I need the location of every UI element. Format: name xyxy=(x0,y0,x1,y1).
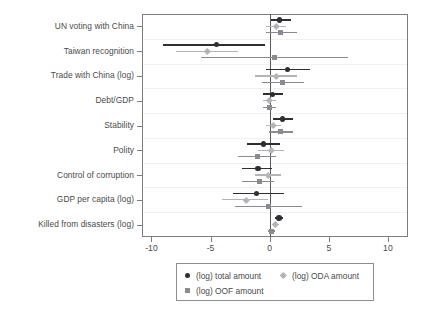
y-axis-tick xyxy=(137,126,142,127)
point-marker-square-2 xyxy=(272,55,277,60)
y-axis-label-1: UN voting with China xyxy=(4,21,134,31)
y-axis-tick xyxy=(137,150,142,151)
x-axis-tick-label-5: 10 xyxy=(368,243,408,253)
x-axis-tick-label-1: -10 xyxy=(131,243,171,253)
grid-line xyxy=(143,212,407,213)
legend-label-2: (log) ODA amount xyxy=(292,271,359,281)
x-axis-tick-label-4: 5 xyxy=(309,243,349,253)
grid-line xyxy=(143,64,407,65)
y-axis-tick xyxy=(137,101,142,102)
x-axis-tick xyxy=(151,237,152,242)
y-axis-label-8: GDP per capita (log) xyxy=(4,194,134,204)
point-marker-square-6 xyxy=(255,154,260,159)
coefficient-plot-figure: UN voting with ChinaTaiwan recognitionTr… xyxy=(0,0,424,312)
circle-marker-icon xyxy=(185,273,190,278)
point-marker-square-7 xyxy=(257,179,262,184)
y-axis-label-6: Polity xyxy=(4,145,134,155)
x-axis-tick xyxy=(270,237,271,242)
point-marker-square-3 xyxy=(280,80,285,85)
legend-label-3: (log) OOF amount xyxy=(196,286,264,296)
point-marker-circle-9 xyxy=(276,215,281,220)
y-axis-label-4: Debt/GDP xyxy=(4,95,134,105)
point-marker-circle-7 xyxy=(255,166,260,171)
point-marker-square-8 xyxy=(266,204,271,209)
y-axis-tick xyxy=(137,200,142,201)
point-marker-circle-1 xyxy=(277,17,282,22)
x-axis-tick xyxy=(211,237,212,242)
square-marker-icon xyxy=(185,288,190,293)
point-marker-square-1 xyxy=(278,30,283,35)
diamond-marker-icon xyxy=(280,272,286,278)
y-axis-tick xyxy=(137,76,142,77)
x-axis-tick xyxy=(388,237,389,242)
y-axis-label-7: Control of corruption xyxy=(4,170,134,180)
grid-line xyxy=(143,163,407,164)
x-axis-tick-label-2: -5 xyxy=(191,243,231,253)
y-axis-tick xyxy=(137,225,142,226)
y-axis-tick xyxy=(137,26,142,27)
grid-line xyxy=(143,187,407,188)
x-axis-tick-label-3: 0 xyxy=(250,243,290,253)
point-marker-square-9 xyxy=(269,229,274,234)
y-axis-label-3: Trade with China (log) xyxy=(4,70,134,80)
legend-label-1: (log) total amount xyxy=(196,271,261,281)
grid-line xyxy=(143,113,407,114)
point-marker-square-4 xyxy=(267,105,272,110)
y-axis-tick xyxy=(137,51,142,52)
point-marker-square-5 xyxy=(278,129,283,134)
y-axis-label-9: Killed from disasters (log) xyxy=(4,219,134,229)
grid-line xyxy=(143,88,407,89)
y-axis-tick xyxy=(137,175,142,176)
grid-line xyxy=(143,39,407,40)
point-marker-circle-6 xyxy=(261,141,266,146)
chart-legend: (log) total amount(log) ODA amount(log) … xyxy=(176,263,374,301)
x-axis-tick xyxy=(329,237,330,242)
y-axis-label-2: Taiwan recognition xyxy=(4,46,134,56)
y-axis-label-5: Stability xyxy=(4,120,134,130)
grid-line xyxy=(143,138,407,139)
